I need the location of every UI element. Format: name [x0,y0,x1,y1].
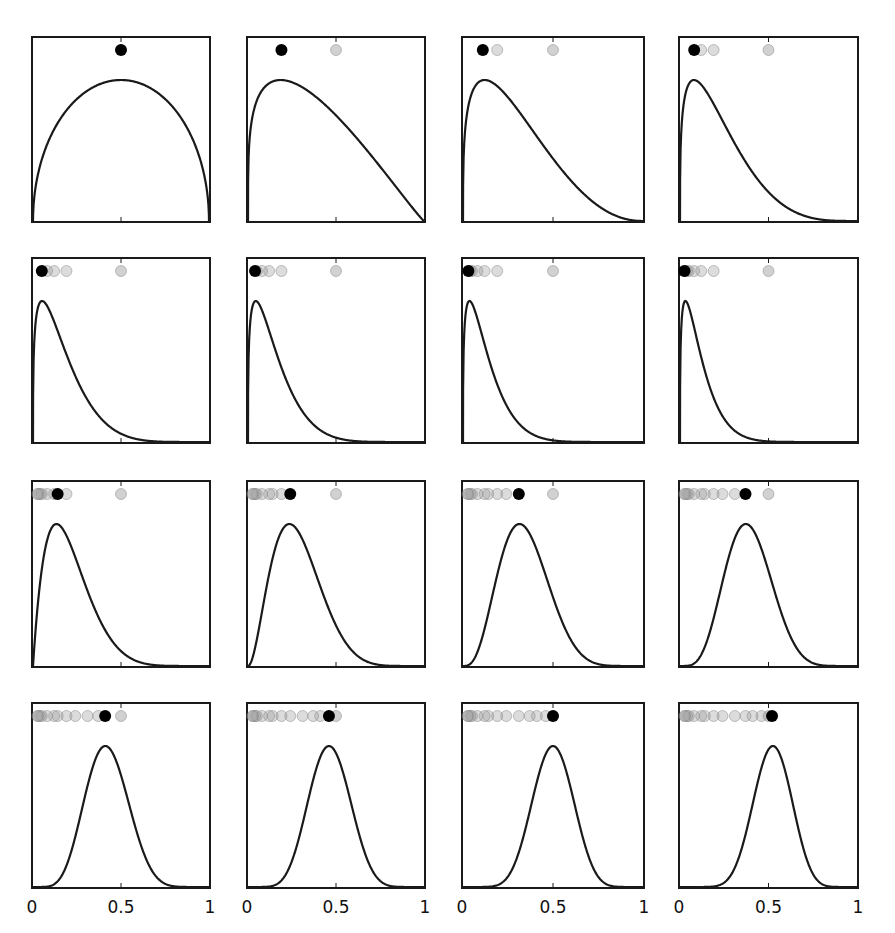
panel-frame [32,481,210,667]
current-mode-dot [739,488,751,500]
panel-11 [462,481,644,667]
panel-7 [462,258,644,443]
previous-mode-dot [32,489,43,500]
reference-dot [548,489,559,500]
panel-12 [679,481,858,667]
panel-frame [679,258,858,443]
previous-mode-dot [679,711,690,722]
panel-10 [247,481,425,667]
x-tick-label: 1 [639,897,650,917]
previous-mode-dot [729,489,740,500]
previous-mode-dot [492,266,503,277]
panel-9 [32,481,210,667]
reference-dot [763,489,774,500]
previous-mode-dot [462,711,473,722]
reference-dot [763,45,774,56]
current-mode-dot [323,710,335,722]
previous-mode-dot [740,711,751,722]
reference-dot [116,489,127,500]
reference-dot [116,266,127,277]
current-mode-dot [115,44,127,56]
previous-mode-dot [32,711,43,722]
panel-13 [32,703,210,888]
reference-dot [331,45,342,56]
current-mode-dot [52,488,64,500]
previous-mode-dot [708,266,719,277]
reference-dot [331,266,342,277]
previous-mode-dot [247,489,258,500]
panel-16 [679,703,858,888]
x-tick-label: 0.5 [755,897,782,917]
panel-frame [679,37,858,222]
current-mode-dot [462,265,474,277]
previous-mode-dot [513,711,524,722]
current-mode-dot [36,265,48,277]
x-tick-label: 1 [205,897,216,917]
previous-mode-dot [524,711,535,722]
panel-frame [32,37,210,222]
previous-mode-dot [679,489,690,500]
panel-frame [32,258,210,443]
panel-frame [462,37,644,222]
x-tick-label: 1 [420,897,431,917]
panel-frame [462,481,644,667]
panel-frame [247,481,425,667]
current-mode-dot [513,488,525,500]
previous-mode-dot [247,711,258,722]
current-mode-dot [284,488,296,500]
x-tick-label: 1 [853,897,864,917]
panel-15 [462,703,644,888]
panel-3 [462,37,644,222]
previous-mode-dot [308,711,319,722]
reference-dot [763,266,774,277]
previous-mode-dot [61,266,72,277]
panel-frame [247,258,425,443]
x-tick-label: 0.5 [322,897,349,917]
previous-mode-dot [708,45,719,56]
panel-1 [32,37,210,222]
reference-dot [548,266,559,277]
x-tick-label: 0 [27,897,38,917]
x-tick-label: 0.5 [107,897,134,917]
panel-frame [32,703,210,888]
panel-4 [679,37,858,222]
panel-grid [32,37,858,888]
x-tick-label: 0.5 [539,897,566,917]
panel-6 [247,258,425,443]
current-mode-dot [688,44,700,56]
reference-dot [331,489,342,500]
current-mode-dot [766,710,778,722]
x-tick-label: 0 [457,897,468,917]
previous-mode-dot [82,711,93,722]
panel-8 [678,258,858,443]
density-grid-figure: 00.5100.5100.5100.51 [0,0,895,933]
current-mode-dot [547,710,559,722]
panel-frame [462,258,644,443]
panel-14 [247,703,425,888]
current-mode-dot [99,710,111,722]
panel-frame [247,703,425,888]
panel-5 [32,258,210,443]
previous-mode-dot [492,45,503,56]
panel-frame [247,37,425,222]
reference-dot [116,711,127,722]
current-mode-dot [249,265,261,277]
current-mode-dot [275,44,287,56]
previous-mode-dot [462,489,473,500]
previous-mode-dot [276,266,287,277]
panel-2 [247,37,425,222]
current-mode-dot [477,44,489,56]
previous-mode-dot [729,711,740,722]
panel-frame [679,703,858,888]
panel-frame [462,703,644,888]
reference-dot [548,45,559,56]
x-tick-label: 0 [674,897,685,917]
current-mode-dot [678,265,690,277]
x-tick-label: 0 [242,897,253,917]
previous-mode-dot [297,711,308,722]
x-axis-tick-labels: 00.5100.5100.5100.51 [27,897,864,917]
